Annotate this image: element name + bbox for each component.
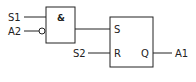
input-label-a2: A2 [8,26,21,37]
sr-latch-set-pin: S [114,24,120,35]
output-label-a1: A1 [175,48,188,59]
and-gate-symbol: & [57,13,65,23]
input-label-s2: S2 [73,48,86,59]
sr-latch-output-pin: Q [141,48,149,59]
inverter-bubble-icon [39,28,45,34]
input-label-s1: S1 [8,12,21,23]
logic-diagram: S1 A2 & S2 S R Q A1 [0,0,196,82]
sr-latch-reset-pin: R [114,48,121,59]
